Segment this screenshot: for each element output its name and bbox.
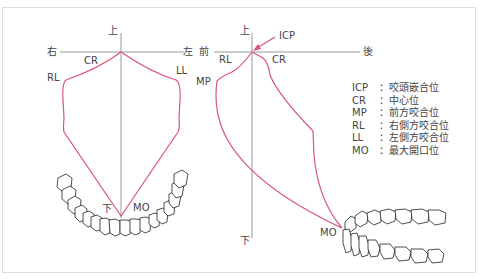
sagittal-icp-label: ICP — [279, 31, 295, 41]
sagittal-front-label: 前 — [199, 47, 209, 57]
frontal-axes — [60, 33, 184, 218]
frontal-right-label: 右 — [47, 47, 57, 57]
sagittal-rl-label: RL — [219, 55, 232, 65]
legend-row-cr: CR：中心位 — [352, 95, 449, 108]
frontal-mo-label: MO — [133, 203, 150, 213]
sagittal-mo-label: MO — [320, 228, 337, 238]
legend: ICP：咬頭嵌合位 CR：中心位 MP：前方咬合位 RL：右側方咬合位 LL：左… — [352, 82, 449, 157]
sagittal-mp-label: MP — [196, 77, 211, 87]
frontal-left-label: 左 — [183, 47, 193, 57]
sagittal-axes — [214, 33, 360, 238]
legend-row-mp: MP：前方咬合位 — [352, 107, 449, 120]
sagittal-envelope-path — [216, 52, 342, 228]
sagittal-down-label: 下 — [240, 236, 250, 246]
legend-row-mo: MO：最大開口位 — [352, 145, 449, 158]
frontal-down-label: 下 — [102, 204, 112, 214]
legend-row-ll: LL：左側方咬合位 — [352, 132, 449, 145]
frontal-ll-label: LL — [176, 66, 187, 76]
side-dental-arch-icon — [343, 209, 446, 263]
lower-dental-arch-icon — [57, 170, 188, 236]
sagittal-back-label: 後 — [363, 47, 373, 57]
sagittal-up-label: 上 — [240, 26, 250, 36]
frontal-rl-label: RL — [47, 73, 60, 83]
icp-arrow-icon — [253, 37, 275, 51]
frontal-up-label: 上 — [108, 26, 118, 36]
legend-row-icp: ICP：咬頭嵌合位 — [352, 82, 449, 95]
sagittal-cr-label: CR — [272, 55, 286, 65]
legend-row-rl: RL：右側方咬合位 — [352, 120, 449, 133]
frontal-cr-label: CR — [84, 56, 98, 66]
